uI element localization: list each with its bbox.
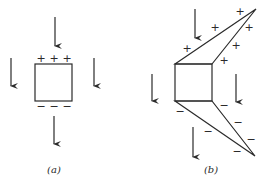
minus-sign: − [36, 100, 45, 113]
plus-sign: + [244, 21, 253, 34]
plus-sign: + [231, 39, 240, 52]
minus-sign: − [246, 133, 255, 146]
element-square [175, 64, 212, 101]
minus-sign: − [232, 145, 241, 158]
plus-sign: + [49, 52, 58, 65]
diagram-canvas: +++−−−(a) ++++++−−−−−−(b) [0, 0, 261, 180]
minus-sign: − [175, 105, 184, 118]
plus-sign: + [210, 21, 219, 34]
minus-sign: − [219, 99, 228, 112]
plus-sign: + [219, 54, 228, 67]
lower-minus-lobe [175, 101, 255, 156]
minus-sign: − [49, 100, 58, 113]
plus-sign: + [182, 42, 191, 55]
plus-sign: + [62, 52, 71, 65]
panel-label: (a) [47, 164, 61, 175]
minus-sign: − [233, 116, 242, 129]
plus-sign: + [235, 5, 244, 18]
panel-b: ++++++−−−−−−(b) [152, 5, 256, 175]
minus-sign: − [203, 125, 212, 138]
panel-a: +++−−−(a) [11, 17, 94, 175]
plus-sign: + [36, 52, 45, 65]
panel-label: (b) [204, 164, 218, 175]
element-square [35, 64, 72, 101]
minus-sign: − [62, 100, 71, 113]
